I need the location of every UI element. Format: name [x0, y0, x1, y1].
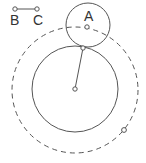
- point-b[interactable]: [13, 7, 17, 11]
- label-c: C: [33, 12, 43, 28]
- label-a: A: [84, 8, 94, 24]
- dashed-circle-point[interactable]: [122, 128, 127, 133]
- radius-line: [75, 48, 83, 89]
- diagram-svg: B C A: [0, 0, 146, 163]
- intersection-point[interactable]: [81, 46, 85, 50]
- point-c[interactable]: [35, 7, 39, 11]
- center-point[interactable]: [73, 87, 77, 91]
- point-a[interactable]: [85, 25, 89, 29]
- label-b: B: [10, 12, 19, 28]
- geometry-diagram: B C A: [0, 0, 146, 163]
